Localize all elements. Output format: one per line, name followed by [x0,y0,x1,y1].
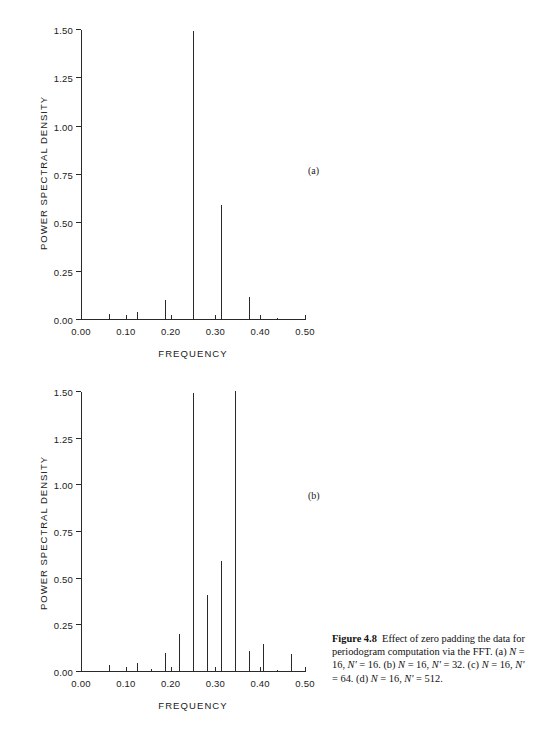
x-tick-a-3 [215,315,216,320]
spike-a-7 [277,318,278,320]
spike-b-7 [179,634,180,672]
y-tick-label-a-2: 0.50 [54,218,73,229]
y-tick-label-b-1: 0.25 [54,620,73,631]
y-tick-label-a-1: 0.25 [54,266,73,277]
plot-area-a: 0.000.250.500.751.001.251.500.000.100.20… [81,30,305,320]
y-tick-label-a-0: 0.00 [54,315,73,326]
caption-text-5: = 32. (c) [441,659,482,670]
y-tick-b-1 [76,624,81,625]
spike-a-5 [221,205,222,320]
x-tick-label-b-2: 0.20 [161,678,180,689]
x-tick-label-a-5: 0.50 [295,326,314,337]
caption-var-n4: N' [432,659,441,670]
x-axis-title-a: FREQUENCY [158,348,228,359]
y-axis-line-b [81,392,82,672]
y-axis-title-b: POWER SPECTRAL DENSITY [38,456,49,610]
x-tick-b-1 [126,667,127,672]
y-tick-a-4 [76,126,81,127]
y-tick-b-6 [76,391,81,392]
spike-b-9 [207,595,208,672]
plot-area-b: 0.000.250.500.751.001.251.500.000.100.20… [81,392,305,672]
y-tick-a-5 [76,77,81,78]
x-tick-label-a-2: 0.20 [161,326,180,337]
spike-b-2 [109,665,110,672]
x-tick-b-3 [215,667,216,672]
panel-label-b: (b) [308,490,320,501]
caption-text-6: = 16, [489,659,516,670]
x-tick-a-1 [126,315,127,320]
y-tick-label-b-3: 0.75 [54,527,73,538]
y-tick-a-2 [76,222,81,223]
x-tick-label-a-3: 0.30 [206,326,225,337]
caption-var-n7: N [371,673,378,684]
spike-a-0 [81,319,82,320]
spike-b-15 [291,654,292,672]
y-axis-title-a: POWER SPECTRAL DENSITY [38,96,49,250]
caption-var-n2: N' [348,659,357,670]
spike-b-11 [235,391,236,672]
spike-b-6 [165,653,166,672]
y-tick-b-4 [76,484,81,485]
y-tick-b-3 [76,531,81,532]
spike-a-2 [137,312,138,320]
x-tick-label-a-0: 0.00 [71,326,90,337]
x-axis-title-b: FREQUENCY [158,700,228,711]
figure-caption: Figure 4.8 Effect of zero padding the da… [332,632,530,685]
y-tick-label-a-6: 1.50 [54,25,73,36]
x-tick-label-b-3: 0.30 [206,678,225,689]
spike-b-4 [137,663,138,672]
x-tick-a-5 [305,315,306,320]
caption-var-n8: N' [404,673,413,684]
y-tick-label-b-4: 1.00 [54,480,73,491]
spike-a-6 [249,297,250,320]
spike-b-14 [277,670,278,672]
panel-label-a: (a) [308,165,319,176]
caption-text-8: = 16, [378,673,405,684]
caption-var-n3: N [398,659,405,670]
caption-text-7: = 64. (d) [332,673,371,684]
y-tick-label-b-2: 0.50 [54,573,73,584]
y-tick-a-3 [76,174,81,175]
chart-panel-a: 0.000.250.500.751.001.251.500.000.100.20… [0,10,330,360]
x-tick-b-4 [260,667,261,672]
spike-b-0 [81,671,82,672]
spike-a-3 [165,300,166,320]
spike-b-13 [263,644,264,672]
x-tick-b-2 [171,667,172,672]
x-tick-label-a-1: 0.10 [116,326,135,337]
spike-b-5 [151,669,152,672]
x-tick-b-5 [305,667,306,672]
spike-a-4 [193,31,194,320]
figure-page: 0.000.250.500.751.001.251.500.000.100.20… [0,0,536,736]
y-axis-line-a [81,30,82,320]
spike-a-1 [109,314,110,320]
x-tick-a-2 [171,315,172,320]
spike-b-1 [95,671,96,672]
y-tick-label-b-5: 1.25 [54,433,73,444]
caption-var-n6: N' [515,659,524,670]
caption-text-3: = 16. (b) [357,659,398,670]
y-tick-label-a-4: 1.00 [54,121,73,132]
y-tick-a-6 [76,29,81,30]
y-tick-label-a-5: 1.25 [54,73,73,84]
spike-b-12 [249,651,250,672]
x-tick-label-b-5: 0.50 [295,678,314,689]
spike-b-10 [221,561,222,672]
y-tick-label-a-3: 0.75 [54,170,73,181]
spike-b-8 [193,393,194,672]
spike-b-3 [123,671,124,672]
caption-var-n5: N [482,659,489,670]
x-tick-label-b-0: 0.00 [71,678,90,689]
chart-panel-b: 0.000.250.500.751.001.251.500.000.100.20… [0,378,330,723]
x-tick-a-4 [260,315,261,320]
caption-text-4: = 16, [405,659,432,670]
y-tick-b-5 [76,438,81,439]
y-tick-label-b-0: 0.00 [54,667,73,678]
y-tick-b-2 [76,578,81,579]
figure-caption-label: Figure 4.8 [332,633,377,644]
y-tick-label-b-6: 1.50 [54,387,73,398]
y-tick-a-1 [76,271,81,272]
x-tick-label-b-4: 0.40 [251,678,270,689]
caption-text-9: = 512. [414,673,443,684]
x-tick-label-b-1: 0.10 [116,678,135,689]
